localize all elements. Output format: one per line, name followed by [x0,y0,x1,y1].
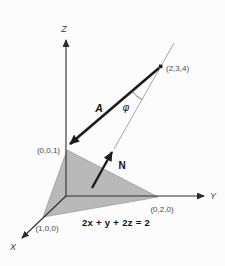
external-point-label: (2,3,4) [166,64,189,73]
vector-n-label: N [118,160,125,171]
y-intercept-label: (0,2,0) [150,205,173,214]
x-axis-label: X [9,242,17,252]
point-2-3-4-dot [159,65,163,69]
plane-equation-label: 2x + y + 2z = 2 [82,217,150,228]
vector-plane-diagram: Z Y X (0,0,1) (0,2,0) (1,0,0) (2,3,4) A … [0,0,225,266]
diagram-canvas: Z Y X (0,0,1) (0,2,0) (1,0,0) (2,3,4) A … [0,0,225,266]
x-intercept-label: (1,0,0) [35,224,58,233]
y-axis-label: Y [210,191,217,201]
vector-a-label: A [94,102,103,114]
phi-angle-label: φ [123,102,130,113]
z-intercept-label: (0,0,1) [37,146,60,155]
z-axis-label: Z [60,24,67,34]
